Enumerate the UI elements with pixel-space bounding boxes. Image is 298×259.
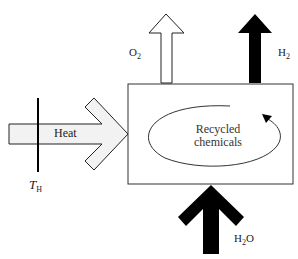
h2o-label: H2O [234,233,254,247]
h2o-suffix: O [246,232,254,244]
h2-output-arrow [238,14,272,83]
heat-label: Heat [54,127,77,139]
recycled-line2: chemicals [180,136,256,149]
thermochemical-cycle-diagram: Heat TH Recycled chemicals O2 H2 H2O [0,0,298,259]
h2-label: H2 [278,47,290,61]
o2-subscript: 2 [137,52,141,61]
recycled-chemicals-label: Recycled chemicals [180,123,256,149]
temperature-label: TH [29,178,42,194]
o2-main: O [129,46,137,58]
o2-label: O2 [129,47,141,61]
heat-label-text: Heat [54,126,77,140]
h2-main: H [278,46,286,58]
temperature-subscript: H [36,185,42,194]
h2-subscript: 2 [286,52,290,61]
h2o-main: H [234,232,242,244]
o2-output-arrow [149,14,184,83]
